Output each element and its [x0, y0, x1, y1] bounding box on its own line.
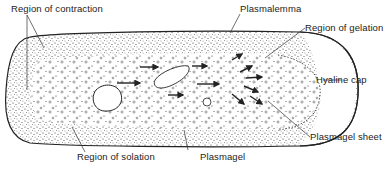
- label-region-of-solation: Region of solation: [77, 151, 155, 162]
- label-hyaline-cap: Hyaline cap: [316, 74, 367, 85]
- label-plasmalemma: Plasmalemma: [240, 3, 301, 14]
- small-vacuole: [203, 98, 211, 106]
- label-plasmagel-sheet: Plasmagel sheet: [310, 131, 382, 142]
- label-region-of-contraction: Region of contraction: [11, 3, 103, 14]
- contractile-vacuole: [93, 85, 121, 111]
- label-region-of-gelation: Region of gelation: [305, 22, 383, 33]
- amoeba-diagram: Region of contraction Plasmalemma Region…: [0, 0, 387, 169]
- label-plasmagel: Plasmagel: [200, 151, 245, 162]
- plasmasol-region: [31, 53, 320, 128]
